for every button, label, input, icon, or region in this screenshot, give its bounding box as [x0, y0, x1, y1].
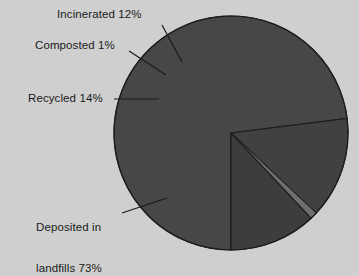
- slice-label-deposited-line2: landfills 73%: [36, 262, 102, 276]
- slice-label-composted: Composted 1%: [35, 39, 115, 53]
- slice-label-deposited-in-landfills: Deposited in landfills 73%: [36, 194, 102, 276]
- slice-label-incinerated: Incinerated 12%: [57, 8, 142, 22]
- slice-label-deposited-line1: Deposited in: [36, 221, 102, 235]
- slice-label-recycled: Recycled 14%: [28, 92, 103, 106]
